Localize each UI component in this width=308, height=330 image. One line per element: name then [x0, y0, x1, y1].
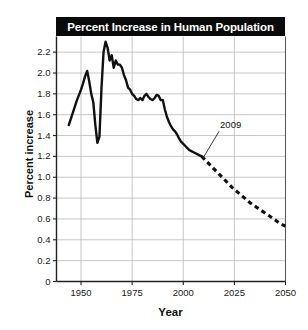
y-tick-label: 1.8	[17, 89, 51, 99]
series-line-observed	[69, 42, 202, 157]
chart-title: Percent Increase in Human Population	[67, 21, 274, 33]
x-axis-label: Year	[56, 306, 285, 318]
annotation-label-2009: 2009	[220, 120, 241, 130]
x-tick-label: 2050	[266, 288, 306, 298]
y-tick-label: 0.2	[17, 256, 51, 266]
x-tick-label: 1950	[61, 288, 101, 298]
series-line-projected	[202, 156, 286, 226]
y-tick-label: 0	[17, 277, 51, 287]
y-tick-label: 1.4	[17, 131, 51, 141]
y-tick-label: 2.2	[17, 47, 51, 57]
chart-figure: Percent Increase in Human Population Per…	[0, 0, 308, 330]
y-tick-label: 1.6	[17, 110, 51, 120]
y-tick-label: 0.8	[17, 193, 51, 203]
gridlines	[57, 37, 286, 282]
y-tick-label: 2.0	[17, 68, 51, 78]
x-tick-label: 2025	[214, 288, 254, 298]
y-tick-label: 0.6	[17, 214, 51, 224]
x-tick-label: 1975	[112, 288, 152, 298]
axis-tick-marks	[53, 52, 286, 285]
data-series-layer	[69, 42, 286, 227]
y-tick-label: 1.2	[17, 151, 51, 161]
chart-title-banner: Percent Increase in Human Population	[56, 17, 285, 36]
y-tick-label: 1.0	[17, 172, 51, 182]
x-tick-label: 2000	[163, 288, 203, 298]
y-tick-label: 0.4	[17, 235, 51, 245]
